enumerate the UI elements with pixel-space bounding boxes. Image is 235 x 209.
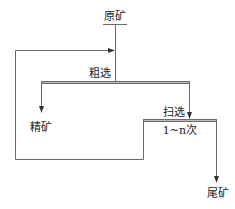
flowsheet-diagram: 原矿 粗选 精矿 扫选 1~n次 尾矿 [0, 0, 235, 209]
rougher-bar [42, 82, 190, 84]
scavenger-feed-arrow-icon [187, 112, 192, 119]
scavenger-bar [144, 120, 217, 122]
tailings-label: 尾矿 [207, 187, 229, 200]
scavenger-repeat-label: 1~n次 [163, 123, 197, 137]
feed-label: 原矿 [104, 10, 126, 23]
recycle-arrow-icon [108, 48, 115, 53]
concentrate-arrow-icon [39, 106, 44, 113]
tailings-arrow-icon [214, 176, 219, 183]
concentrate-label: 精矿 [30, 121, 52, 134]
scavenger-label: 扫选 [163, 106, 185, 119]
rougher-label: 粗选 [89, 67, 111, 80]
recycle-line [16, 51, 144, 160]
